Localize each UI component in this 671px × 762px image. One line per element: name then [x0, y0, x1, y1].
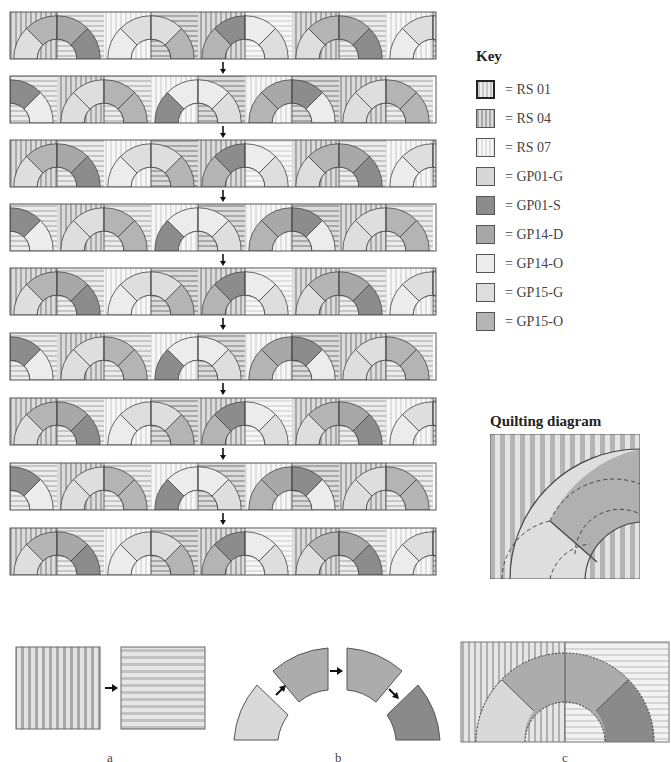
- quilt-row: [10, 12, 450, 74]
- quilt-block: [151, 76, 245, 123]
- quilt-block: [245, 204, 339, 251]
- quilt-block: [10, 528, 104, 575]
- quilt-block: [104, 398, 198, 445]
- key-label: = GP15-G: [505, 285, 563, 301]
- quilt-block: [151, 463, 245, 510]
- swatch: [476, 196, 495, 215]
- quilt-block: [292, 268, 386, 315]
- quilt-block: [386, 528, 450, 575]
- swatch: [476, 254, 495, 273]
- quilt-block: [292, 528, 386, 575]
- quilt-block: [10, 268, 104, 315]
- quilt-row: [0, 333, 436, 395]
- quilt-block: [339, 463, 433, 510]
- key-label: = GP15-O: [505, 314, 563, 330]
- key-legend: Key = RS 01= RS 04= RS 07= GP01-G= GP01-…: [476, 48, 563, 336]
- quilt-block: [0, 333, 57, 380]
- quilt-block: [198, 398, 292, 445]
- key-item: = GP15-G: [476, 278, 563, 307]
- key-item: = RS 04: [476, 104, 563, 133]
- quilt-block: [292, 140, 386, 187]
- quilt-block: [104, 140, 198, 187]
- swatch: [476, 283, 495, 302]
- swatch: [476, 109, 495, 128]
- construction-steps: [0, 600, 671, 762]
- step-b: [234, 648, 440, 740]
- key-label: = RS 07: [505, 140, 551, 156]
- quilt-row: [0, 204, 436, 266]
- step-c: [461, 642, 669, 742]
- key-label: = GP01-G: [505, 169, 563, 185]
- quilt-block: [151, 333, 245, 380]
- quilt-block: [245, 333, 339, 380]
- quilt-block: [198, 528, 292, 575]
- quilt-block: [245, 76, 339, 123]
- quilt-block: [10, 398, 104, 445]
- key-label: = RS 01: [505, 82, 551, 98]
- key-item: = GP14-D: [476, 220, 563, 249]
- key-title: Key: [476, 48, 563, 65]
- quilt-row: [0, 463, 436, 525]
- step-a: [16, 647, 205, 729]
- quilt-row: [10, 528, 450, 575]
- quilt-block: [339, 204, 433, 251]
- quilt-row: [10, 268, 450, 330]
- quilt-block: [104, 268, 198, 315]
- swatch: [476, 80, 495, 99]
- quilt-block: [0, 204, 57, 251]
- quilt-row: [10, 398, 450, 460]
- quilt-block: [386, 12, 450, 59]
- quilt-row: [10, 140, 450, 202]
- quilt-block: [57, 204, 151, 251]
- quilt-block: [386, 398, 450, 445]
- key-label: = GP14-O: [505, 256, 563, 272]
- key-item: = GP15-O: [476, 307, 563, 336]
- swatch: [476, 138, 495, 157]
- quilt-block: [292, 12, 386, 59]
- key-label: = RS 04: [505, 111, 551, 127]
- quilt-block: [198, 12, 292, 59]
- quilt-block: [10, 12, 104, 59]
- quilt-block: [339, 76, 433, 123]
- swatch: [476, 225, 495, 244]
- quilt-block: [57, 76, 151, 123]
- quilt-layout-diagram: [0, 0, 450, 600]
- quilt-block: [57, 333, 151, 380]
- quilt-block: [292, 398, 386, 445]
- quilt-block: [198, 140, 292, 187]
- key-label: = GP01-S: [505, 198, 561, 214]
- key-item: = GP01-S: [476, 191, 563, 220]
- key-item: = RS 01: [476, 75, 563, 104]
- quilt-block: [386, 140, 450, 187]
- key-label: = GP14-D: [505, 227, 563, 243]
- quilt-block: [245, 463, 339, 510]
- quilt-block: [339, 333, 433, 380]
- quilt-row: [0, 76, 436, 138]
- key-item: = GP14-O: [476, 249, 563, 278]
- quilt-block: [0, 463, 57, 510]
- quilt-block: [0, 76, 57, 123]
- quilt-block: [104, 12, 198, 59]
- caption-a: a: [107, 750, 113, 762]
- quilting-diagram: [490, 434, 640, 579]
- caption-b: b: [335, 750, 342, 762]
- caption-c: c: [562, 750, 568, 762]
- quilt-block: [57, 463, 151, 510]
- key-item: = RS 07: [476, 133, 563, 162]
- quilt-block: [198, 268, 292, 315]
- swatch: [476, 312, 495, 331]
- quilt-block: [104, 528, 198, 575]
- quilt-block: [151, 204, 245, 251]
- quilt-block: [10, 140, 104, 187]
- quilt-block: [386, 268, 450, 315]
- quilting-diagram-title: Quilting diagram: [490, 413, 601, 430]
- swatch: [476, 167, 495, 186]
- key-item: = GP01-G: [476, 162, 563, 191]
